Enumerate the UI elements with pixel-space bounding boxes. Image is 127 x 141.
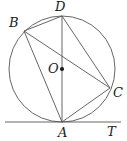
- chord-bc: [24, 31, 110, 88]
- point-label-a: A: [58, 126, 67, 139]
- chord-dc: [62, 16, 110, 88]
- center-point-dot: [60, 67, 64, 71]
- chord-ac: [62, 88, 110, 122]
- figure-canvas: [0, 0, 127, 141]
- geometry-figure: D B O C A T: [0, 0, 127, 141]
- point-label-o: O: [48, 62, 59, 75]
- point-label-d: D: [55, 0, 65, 13]
- point-label-t: T: [107, 125, 116, 138]
- chord-bd: [24, 16, 62, 31]
- point-label-b: B: [9, 16, 19, 29]
- chord-ba: [24, 31, 62, 122]
- point-label-c: C: [113, 86, 123, 99]
